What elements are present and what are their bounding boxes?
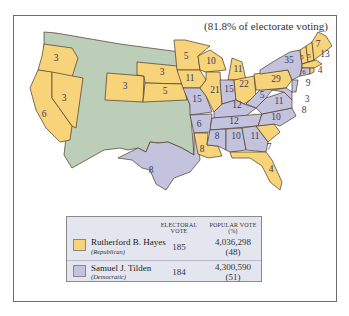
svg-text:35: 35 <box>284 55 294 65</box>
svg-text:11: 11 <box>274 96 283 106</box>
svg-text:29: 29 <box>271 74 281 84</box>
svg-text:10: 10 <box>231 131 241 141</box>
svg-text:6: 6 <box>302 68 306 76</box>
svg-text:21: 21 <box>210 85 220 95</box>
state-new-jersey <box>292 80 298 92</box>
svg-text:13: 13 <box>320 49 330 59</box>
state-rhode-island <box>310 68 314 74</box>
electoral-votes: 185 <box>167 242 191 252</box>
svg-text:7: 7 <box>316 39 321 49</box>
svg-text:10: 10 <box>271 112 281 122</box>
electoral-vote-header: ELECTORAL VOTE <box>159 222 199 234</box>
svg-text:10: 10 <box>206 56 216 66</box>
popular-percent: (51) <box>207 272 259 282</box>
svg-text:11: 11 <box>233 64 242 74</box>
svg-text:8: 8 <box>149 165 154 175</box>
svg-text:5: 5 <box>163 86 168 96</box>
popular-votes: 4,036,298 <box>207 237 259 247</box>
svg-text:15: 15 <box>224 84 234 94</box>
svg-text:11: 11 <box>185 73 194 83</box>
svg-text:4: 4 <box>318 65 323 75</box>
candidate-party: (Democratic) <box>91 273 126 280</box>
svg-text:5: 5 <box>300 53 304 61</box>
svg-text:12: 12 <box>232 100 242 110</box>
svg-text:9: 9 <box>306 78 311 88</box>
candidate-name: Samuel J. Tilden <box>91 263 151 273</box>
svg-text:3: 3 <box>62 93 67 103</box>
svg-text:5: 5 <box>307 52 311 60</box>
svg-text:5: 5 <box>260 90 265 100</box>
svg-text:8: 8 <box>200 144 205 154</box>
svg-text:4: 4 <box>269 164 274 174</box>
popular-votes: 4,300,590 <box>207 262 259 272</box>
electoral-votes: 184 <box>167 267 191 277</box>
svg-text:7: 7 <box>267 142 272 152</box>
legend-divider <box>67 260 261 261</box>
democratic-swatch <box>73 265 86 277</box>
election-legend: ELECTORAL VOTE POPULAR VOTE (%) Rutherfo… <box>66 216 262 282</box>
svg-text:12: 12 <box>229 116 239 126</box>
svg-text:3: 3 <box>305 94 310 104</box>
svg-text:3: 3 <box>160 67 165 77</box>
republican-swatch <box>73 239 86 251</box>
svg-text:3: 3 <box>54 53 59 63</box>
popular-vote-header: POPULAR VOTE (%) <box>207 222 259 234</box>
svg-text:6: 6 <box>197 119 202 129</box>
svg-text:5: 5 <box>184 51 189 61</box>
svg-text:15: 15 <box>192 94 202 104</box>
svg-text:8: 8 <box>302 105 307 115</box>
state-florida <box>230 152 282 190</box>
svg-text:11: 11 <box>250 131 259 141</box>
popular-percent: (48) <box>207 247 259 257</box>
svg-text:3: 3 <box>123 81 128 91</box>
svg-text:6: 6 <box>42 109 47 119</box>
svg-text:8: 8 <box>215 131 220 141</box>
candidate-name: Rutherford B. Hayes <box>91 237 166 247</box>
candidate-party: (Republican) <box>91 248 125 255</box>
svg-text:22: 22 <box>239 79 249 89</box>
